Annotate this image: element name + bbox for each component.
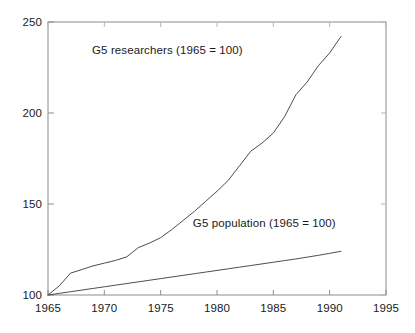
population-annotation: G5 population (1965 = 100) [193, 217, 336, 229]
y-axis-tick-label: 100 [6, 289, 42, 301]
plot-frame [48, 22, 386, 295]
y-axis-tick-label: 150 [6, 198, 42, 210]
y-axis-tick-label: 200 [6, 107, 42, 119]
x-axis-tick-label: 1990 [317, 302, 343, 314]
x-axis-tick-label: 1980 [204, 302, 230, 314]
chart-container: 100150200250 196519701975198019851990199… [0, 0, 415, 333]
series-line-researchers [48, 37, 341, 295]
x-axis-tick-label: 1965 [35, 302, 61, 314]
y-axis-tick-label: 250 [6, 16, 42, 28]
x-axis-ticks [48, 22, 386, 295]
y-axis-ticks [48, 22, 386, 295]
x-axis-tick-label: 1970 [91, 302, 117, 314]
x-axis-tick-label: 1995 [373, 302, 399, 314]
researchers-annotation: G5 researchers (1965 = 100) [92, 44, 243, 56]
series-line-population [48, 251, 341, 295]
x-axis-tick-label: 1975 [148, 302, 174, 314]
data-series-group [48, 37, 341, 295]
x-axis-tick-label: 1985 [260, 302, 286, 314]
